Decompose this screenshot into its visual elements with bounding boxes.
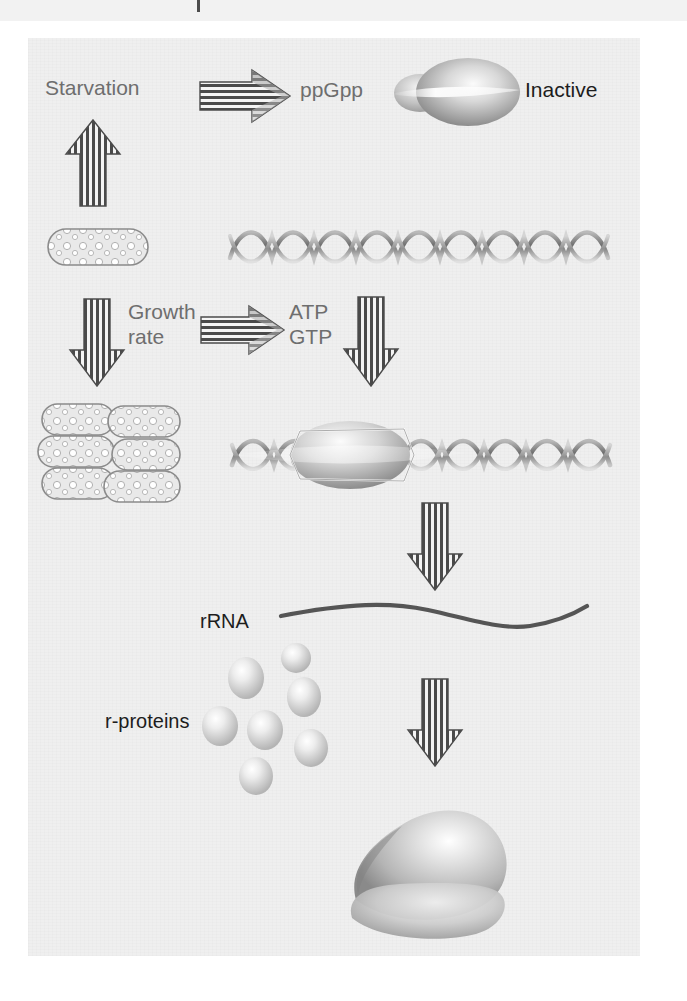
page-top-strip	[0, 0, 687, 21]
arrow-down-atp-gtp	[340, 294, 402, 388]
bacterium-cell-icon	[46, 225, 150, 269]
label-ppgpp: ppGpp	[300, 78, 363, 102]
dna-double-helix-icon	[226, 218, 612, 276]
arrow-down-transcription	[404, 500, 466, 592]
rrna-strand-icon	[278, 598, 590, 638]
rna-polymerase-icon	[234, 421, 466, 489]
label-inactive: Inactive	[525, 78, 597, 102]
r-protein-spheres-icon	[200, 650, 390, 790]
label-r-proteins: r-proteins	[105, 710, 189, 732]
label-gtp: GTP	[289, 325, 332, 349]
arrow-starvation-to-ppgpp	[198, 66, 294, 126]
label-growth: Growth	[128, 300, 196, 324]
label-atp: ATP	[289, 300, 328, 324]
arrow-down-growth-rate	[66, 296, 128, 388]
arrow-down-ribosome-assembly	[404, 676, 466, 768]
cropped-text-descender	[197, 0, 200, 12]
label-rrna: rRNA	[200, 610, 249, 632]
assembled-ribosome-icon	[338, 790, 528, 940]
bacteria-colony-icon	[36, 400, 186, 506]
scanned-figure-page: Starvation ppGpp	[0, 0, 687, 1001]
arrow-growth-to-atp	[199, 302, 287, 358]
label-starvation: Starvation	[45, 76, 140, 100]
label-rate: rate	[128, 325, 164, 349]
dna-with-rna-polymerase-icon	[228, 415, 620, 493]
inactive-ribosome-icon	[388, 56, 523, 128]
arrow-up-starvation	[62, 118, 124, 208]
